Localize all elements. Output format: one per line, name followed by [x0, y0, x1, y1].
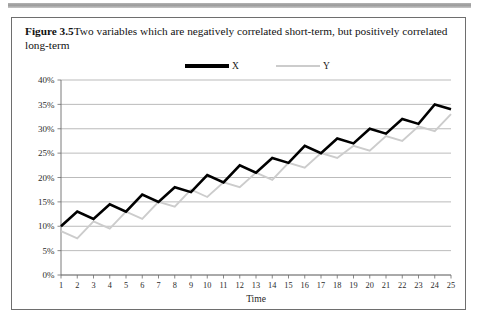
x-tick-label: 12 [236, 281, 244, 290]
chart-x-axis-ticks: 1234567891011121314151617181920212223242… [59, 275, 455, 290]
x-tick-label: 9 [189, 281, 193, 290]
figure-frame: Figure 3.5Two variables which are negati… [11, 17, 466, 310]
chart-gridlines [61, 80, 451, 275]
x-tick-label: 8 [173, 281, 177, 290]
x-tick-label: 2 [75, 281, 79, 290]
x-tick-label: 20 [366, 281, 374, 290]
x-tick-label: 4 [108, 281, 113, 290]
line-chart-svg: 0%5%10%15%20%25%30%35%40% 12345678910111… [12, 18, 467, 311]
x-tick-label: 25 [447, 281, 455, 290]
x-tick-label: 23 [414, 281, 422, 290]
y-tick-label: 25% [38, 148, 55, 158]
data-series-y [61, 114, 451, 238]
x-tick-label: 7 [156, 281, 160, 290]
y-tick-label: 30% [38, 124, 55, 134]
y-tick-label: 15% [38, 197, 55, 207]
page-canvas: Figure 3.5Two variables which are negati… [0, 0, 479, 332]
x-tick-label: 17 [317, 281, 325, 290]
x-tick-label: 15 [284, 281, 292, 290]
x-tick-label: 22 [398, 281, 406, 290]
page-top-rule [8, 3, 471, 8]
x-tick-label: 14 [268, 281, 277, 290]
y-tick-label: 5% [43, 246, 56, 256]
chart-x-axis-title: Time [246, 294, 266, 304]
y-tick-label: 40% [38, 75, 55, 85]
chart-plot-area: 0%5%10%15%20%25%30%35%40% 12345678910111… [12, 18, 467, 311]
x-tick-label: 10 [203, 281, 211, 290]
y-tick-label: 35% [38, 100, 55, 110]
y-tick-label: 20% [38, 173, 55, 183]
x-tick-label: 13 [252, 281, 260, 290]
x-tick-label: 24 [431, 281, 440, 290]
y-tick-label: 10% [38, 221, 55, 231]
data-series-x [61, 104, 451, 226]
x-tick-label: 16 [301, 281, 309, 290]
x-tick-label: 3 [91, 281, 95, 290]
x-tick-label: 18 [333, 281, 341, 290]
x-tick-label: 1 [59, 281, 63, 290]
x-tick-label: 19 [349, 281, 357, 290]
chart-y-axis-ticks: 0%5%10%15%20%25%30%35%40% [38, 75, 61, 280]
y-tick-label: 0% [43, 270, 56, 280]
x-tick-label: 6 [140, 281, 144, 290]
x-tick-label: 5 [124, 281, 128, 290]
x-tick-label: 11 [220, 281, 228, 290]
x-tick-label: 21 [382, 281, 390, 290]
